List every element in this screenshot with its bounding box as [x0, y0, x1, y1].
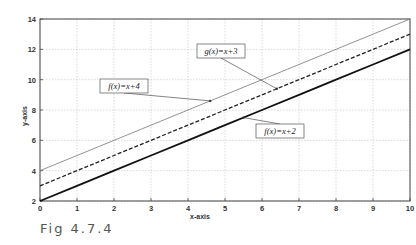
x-tick-label: 4	[186, 204, 191, 213]
y-tick-label: 4	[32, 167, 37, 176]
annotation-label: f(x)=x+4	[108, 81, 140, 91]
x-tick-label: 8	[334, 204, 338, 213]
x-tick-label: 2	[112, 204, 116, 213]
y-tick-label: 12	[28, 45, 36, 54]
annotation-arrow	[124, 93, 210, 101]
x-tick-label: 6	[260, 204, 264, 213]
x-tick-label: 1	[75, 204, 79, 213]
annotation-label: g(x)=x+3	[204, 46, 237, 56]
arrow-head	[242, 116, 244, 118]
y-axis-label: y-axis	[21, 106, 29, 126]
y-tick-label: 10	[28, 76, 36, 85]
x-axis-label: x-axis	[190, 213, 210, 220]
line-chart: 0123456789102468101214x-axisy-axisf(x)=x…	[0, 0, 416, 245]
annotation-arrow	[221, 58, 277, 89]
x-tick-label: 9	[371, 204, 375, 213]
x-tick-label: 0	[38, 204, 42, 213]
y-tick-label: 2	[32, 197, 36, 206]
x-tick-label: 3	[149, 204, 153, 213]
y-tick-label: 8	[32, 106, 36, 115]
arrow-head	[276, 88, 278, 90]
x-tick-label: 5	[223, 204, 227, 213]
y-tick-label: 14	[28, 15, 37, 24]
x-tick-label: 7	[297, 204, 301, 213]
y-tick-label: 6	[32, 136, 36, 145]
series-line	[40, 19, 410, 171]
arrow-head	[209, 100, 211, 102]
x-tick-label: 10	[406, 204, 414, 213]
annotation-label: f(x)=x+2	[264, 126, 296, 136]
figure-caption: Fig 4.7.4	[40, 221, 114, 236]
